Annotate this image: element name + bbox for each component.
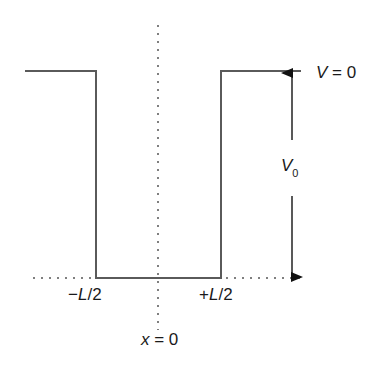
label-minus-l-half: −L/2 [68,286,102,303]
label-v0-depth: V0 [281,157,298,174]
label-x-equals-zero: x = 0 [141,331,178,348]
label-v-var: V [316,63,327,82]
label-plus-l-half: +L/2 [199,286,233,303]
potential-well-outline [25,71,301,278]
label-v-equals-zero: V = 0 [316,64,356,81]
potential-well-diagram [0,0,389,367]
